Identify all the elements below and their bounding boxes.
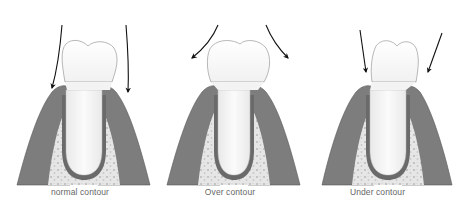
panel-under-contour: Under contour xyxy=(300,0,455,209)
tooth-illustration-normal xyxy=(0,0,160,190)
caption-under: Under contour xyxy=(300,187,455,197)
panel-normal-contour: normal contour xyxy=(0,0,160,209)
tooth-illustration-over xyxy=(150,0,310,190)
caption-normal: normal contour xyxy=(0,187,160,197)
arrow-right xyxy=(266,25,288,58)
arrow-left xyxy=(52,25,62,88)
caption-over: Over contour xyxy=(150,187,310,197)
arrow-left xyxy=(360,30,366,72)
arrow-right xyxy=(428,33,442,72)
arrow-right xyxy=(126,25,128,92)
tooth-illustration-under xyxy=(300,0,455,190)
panel-over-contour: Over contour xyxy=(150,0,310,209)
